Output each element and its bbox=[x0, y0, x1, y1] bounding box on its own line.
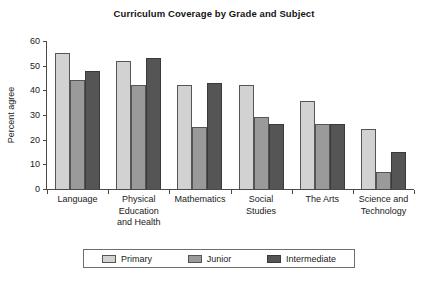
legend-label: Junior bbox=[207, 254, 232, 264]
bar-primary bbox=[55, 53, 70, 189]
bar-primary bbox=[361, 129, 376, 189]
x-axis-category-label: SocialStudies bbox=[231, 194, 292, 229]
bar-primary bbox=[116, 61, 131, 189]
bar-primary bbox=[239, 85, 254, 189]
plot-area: 0102030405060 bbox=[46, 41, 414, 189]
bar-group bbox=[108, 41, 169, 189]
x-axis-category-label: PhysicalEducationand Health bbox=[108, 194, 169, 229]
bar-intermediate bbox=[269, 124, 284, 189]
bar-groups bbox=[47, 41, 414, 189]
bar-group bbox=[231, 41, 292, 189]
x-axis-category-label: Science andTechnology bbox=[353, 194, 414, 229]
legend-swatch-primary bbox=[102, 255, 116, 263]
y-axis-tick-label: 40 bbox=[30, 85, 40, 95]
y-axis-title: Percent agree bbox=[4, 41, 18, 189]
x-axis-category-label: Language bbox=[47, 194, 108, 229]
chart-title: Curriculum Coverage by Grade and Subject bbox=[0, 8, 428, 19]
bar-junior bbox=[131, 85, 146, 189]
bar-junior bbox=[70, 80, 85, 189]
legend-item: Primary bbox=[102, 254, 152, 264]
bar-primary bbox=[300, 101, 315, 189]
bar-intermediate bbox=[85, 71, 100, 189]
legend-swatch-intermediate bbox=[267, 255, 281, 263]
bar-junior bbox=[376, 172, 391, 189]
bar-intermediate bbox=[207, 83, 222, 189]
bar-group bbox=[169, 41, 230, 189]
bar-junior bbox=[254, 117, 269, 189]
bar-junior bbox=[192, 127, 207, 189]
y-axis-tick-label: 30 bbox=[30, 110, 40, 120]
x-axis-category-label: Mathematics bbox=[169, 194, 230, 229]
bar-chart: Curriculum Coverage by Grade and Subject… bbox=[0, 0, 428, 282]
bar-group bbox=[47, 41, 108, 189]
bar-intermediate bbox=[330, 124, 345, 189]
y-axis-tick-label: 10 bbox=[30, 159, 40, 169]
legend-label: Intermediate bbox=[286, 254, 336, 264]
chart-legend: PrimaryJuniorIntermediate bbox=[83, 249, 355, 268]
y-axis-tick-label: 20 bbox=[30, 135, 40, 145]
bar-primary bbox=[177, 85, 192, 189]
y-axis-tick-label: 50 bbox=[30, 61, 40, 71]
legend-swatch-junior bbox=[188, 255, 202, 263]
legend-item: Junior bbox=[188, 254, 232, 264]
legend-item: Intermediate bbox=[267, 254, 336, 264]
y-axis-title-text: Percent agree bbox=[6, 87, 16, 144]
bar-junior bbox=[315, 124, 330, 189]
x-axis-category-labels: LanguagePhysicalEducationand HealthMathe… bbox=[47, 194, 414, 229]
y-axis-tick-label: 0 bbox=[35, 184, 40, 194]
x-axis-category-label: The Arts bbox=[292, 194, 353, 229]
bar-intermediate bbox=[391, 152, 406, 189]
bar-group bbox=[353, 41, 414, 189]
x-axis-tick bbox=[414, 190, 415, 194]
y-axis-tick-label: 60 bbox=[30, 36, 40, 46]
legend-label: Primary bbox=[121, 254, 152, 264]
bar-group bbox=[292, 41, 353, 189]
bar-intermediate bbox=[146, 58, 161, 189]
